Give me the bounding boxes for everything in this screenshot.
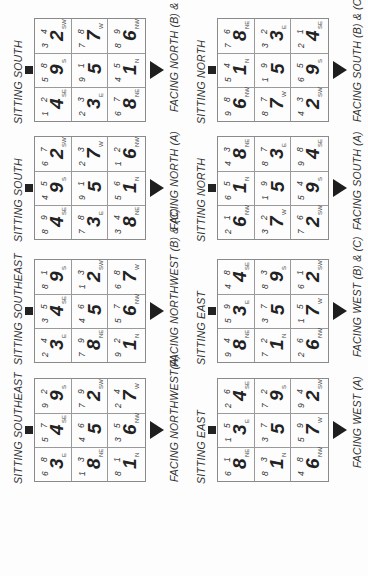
period-star: 4 bbox=[302, 148, 324, 159]
grid-cell: 798NE bbox=[72, 328, 109, 362]
mountain-star: 3 bbox=[40, 43, 50, 48]
mountain-star: 9 bbox=[296, 403, 306, 408]
grid-cell: 678NE bbox=[108, 87, 145, 121]
grid-cell: 138NE bbox=[72, 447, 109, 481]
mountain-star: 5 bbox=[296, 437, 306, 442]
period-star: 5 bbox=[84, 304, 106, 315]
grid-cell-center: 915 bbox=[72, 53, 109, 87]
chart-title: SITTING SOUTH bbox=[12, 158, 24, 242]
grid-cell: 984SE bbox=[291, 137, 328, 171]
grid-cell: 839S bbox=[255, 260, 292, 294]
mountain-star: 2 bbox=[223, 403, 233, 408]
mountain-star: 9 bbox=[296, 161, 306, 166]
direction-label: E bbox=[98, 93, 104, 97]
mountain-star: 3 bbox=[260, 43, 270, 48]
flying-star-grid: 124SE 589S 342SW 233E 915 787W 678NE 451… bbox=[34, 18, 146, 122]
mountain-star: 7 bbox=[260, 352, 270, 357]
period-star: 3 bbox=[266, 148, 288, 159]
grid-cell: 942SW bbox=[291, 379, 328, 413]
grid-cell: 216NW bbox=[218, 205, 255, 239]
grid-cell-center: 195 bbox=[255, 53, 292, 87]
chart-title: SITTING NORTH bbox=[195, 40, 207, 124]
sitting-marker-icon bbox=[208, 426, 216, 434]
mountain-star: 1 bbox=[223, 437, 233, 442]
direction-label: E bbox=[98, 211, 104, 215]
period-star: 9 bbox=[266, 390, 288, 401]
mountain-star: 2 bbox=[77, 161, 87, 166]
direction-label: NE bbox=[244, 21, 250, 29]
mountain-star: 5 bbox=[113, 195, 123, 200]
facing-arrow-icon bbox=[150, 302, 164, 320]
grid-cell: 589S bbox=[35, 53, 72, 87]
grid-cell: 819S bbox=[35, 260, 72, 294]
period-star: 6 bbox=[229, 98, 251, 109]
period-star: 6 bbox=[119, 148, 141, 159]
facing-arrow-icon bbox=[333, 302, 347, 320]
mountain-star: 4 bbox=[296, 471, 306, 476]
period-star: 7 bbox=[83, 148, 105, 159]
period-star: 2 bbox=[302, 216, 324, 227]
period-star: 1 bbox=[119, 458, 141, 469]
period-star: 8 bbox=[83, 458, 105, 469]
mountain-star: 4 bbox=[296, 111, 306, 116]
flying-star-grid: 243E 354SE 819S 798NE 465 132SW 921N 576… bbox=[34, 259, 146, 363]
period-star: 7 bbox=[119, 271, 141, 282]
mountain-star: 9 bbox=[77, 77, 87, 82]
period-star: 9 bbox=[46, 64, 68, 75]
direction-label: E bbox=[61, 334, 67, 338]
direction-label: E bbox=[244, 419, 250, 423]
direction-label: NW bbox=[317, 328, 323, 338]
facing-arrow-icon bbox=[333, 61, 347, 79]
mountain-star: 2 bbox=[223, 229, 233, 234]
period-star: 6 bbox=[119, 30, 141, 41]
period-star: 6 bbox=[119, 305, 141, 316]
grid-cell: 243E bbox=[35, 328, 72, 362]
period-star: 8 bbox=[229, 339, 251, 350]
period-star: 6 bbox=[119, 424, 141, 435]
grid-cell: 921N bbox=[108, 328, 145, 362]
direction-label: N bbox=[281, 453, 287, 457]
period-star: 4 bbox=[46, 305, 68, 316]
grid-cell: 459S bbox=[35, 171, 72, 205]
grid-cell: 266NW bbox=[291, 328, 328, 362]
grid-cell: 896NW bbox=[108, 19, 145, 53]
mountain-star: 8 bbox=[260, 111, 270, 116]
period-star: 3 bbox=[229, 305, 251, 316]
direction-label: SW bbox=[317, 205, 323, 215]
mountain-star: 1 bbox=[77, 471, 87, 476]
grid-cell: 561N bbox=[108, 171, 145, 205]
sitting-marker-icon bbox=[208, 307, 216, 315]
mountain-star: 5 bbox=[223, 77, 233, 82]
period-star: 5 bbox=[267, 181, 289, 192]
mountain-star: 6 bbox=[40, 161, 50, 166]
direction-label: SE bbox=[244, 381, 250, 389]
direction-label: W bbox=[134, 264, 140, 270]
mountain-star: 1 bbox=[260, 195, 270, 200]
direction-label: W bbox=[98, 23, 104, 29]
mountain-star: 2 bbox=[40, 352, 50, 357]
grid-cell-center: 375 bbox=[255, 294, 292, 328]
chart-title: SITTING NORTH bbox=[195, 158, 207, 242]
direction-label: NW bbox=[134, 413, 140, 423]
flying-star-grid: 986NW 541N 768NE 877W 195 323E 432SW 659… bbox=[217, 18, 329, 122]
period-star: 3 bbox=[46, 339, 68, 350]
grid-cell: 432SW bbox=[291, 87, 328, 121]
grid-cell: 597W bbox=[291, 413, 328, 447]
direction-label: NW bbox=[134, 137, 140, 147]
mountain-star: 7 bbox=[77, 43, 87, 48]
mountain-star: 8 bbox=[40, 284, 50, 289]
mountain-star: 4 bbox=[77, 437, 87, 442]
mountain-star: 4 bbox=[77, 318, 87, 323]
period-star: 5 bbox=[267, 63, 289, 74]
grid-cell: 247W bbox=[108, 379, 145, 413]
direction-label: SW bbox=[98, 379, 104, 389]
direction-label: SE bbox=[61, 89, 67, 97]
direction-label: NE bbox=[98, 330, 104, 338]
mountain-star: 6 bbox=[296, 284, 306, 289]
period-star: 1 bbox=[266, 458, 288, 469]
flying-star-grid: 683E 574SE 929S 138NE 465 792SW 811N 356… bbox=[34, 378, 146, 482]
period-star: 3 bbox=[46, 458, 68, 469]
mountain-star: 3 bbox=[113, 437, 123, 442]
mountain-star: 3 bbox=[40, 318, 50, 323]
facing-label: FACING SOUTH (A) bbox=[351, 131, 363, 230]
